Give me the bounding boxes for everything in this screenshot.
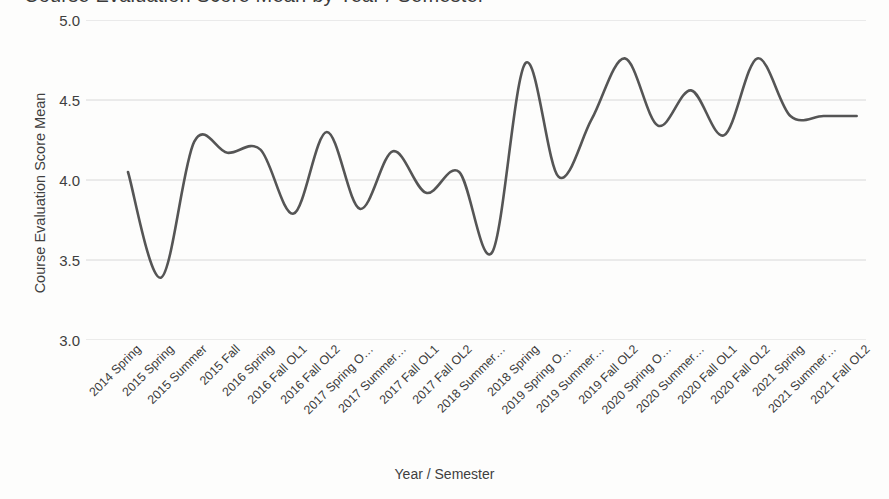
- line-chart-svg: [86, 20, 866, 340]
- y-tick-label: 3.5: [34, 252, 80, 269]
- plot-area: [86, 20, 866, 340]
- x-axis-tick-labels: 2014 Spring2015 Spring2015 Summer2015 Fa…: [86, 340, 886, 460]
- x-tick-label: 2021 Fall OL2: [808, 342, 873, 407]
- series-line-course-evaluation-score-mean: [128, 58, 857, 278]
- chart-title: Course Evaluation Score Mean by Year / S…: [24, 0, 485, 7]
- y-tick-label: 4.5: [34, 92, 80, 109]
- y-axis-tick-labels: 5.04.54.03.53.0: [22, 20, 80, 340]
- x-axis-title: Year / Semester: [0, 466, 889, 482]
- y-tick-label: 5.0: [34, 12, 80, 29]
- y-tick-label: 4.0: [34, 172, 80, 189]
- y-tick-label: 3.0: [34, 332, 80, 349]
- chart-page: Course Evaluation Score Mean by Year / S…: [0, 0, 889, 499]
